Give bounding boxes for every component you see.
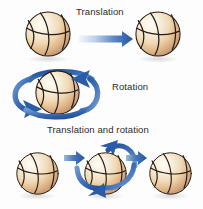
ball-shadow — [26, 55, 70, 63]
ball-shadow — [84, 192, 126, 200]
rotation-orbit-arrow-right — [71, 70, 98, 111]
rotation-orbit-arrow-left-middle — [77, 168, 106, 198]
translation-arrow-1 — [64, 151, 85, 165]
ball-end — [150, 153, 191, 194]
ball-shadow — [149, 192, 191, 200]
ball-shadow — [136, 55, 180, 63]
translation-arrow-2 — [126, 151, 147, 165]
row-translation — [26, 12, 180, 63]
ball-source — [26, 12, 70, 56]
ball-start — [17, 153, 58, 194]
rotation-orbit-arrow-back-middle — [100, 140, 135, 166]
row-translation-and-rotation — [16, 140, 191, 200]
rotation-orbit-arrow-front — [26, 110, 83, 117]
rotation-orbit-arrow-back — [30, 72, 92, 80]
ball-middle — [85, 153, 126, 194]
rotation-orbit-arrow-right-middle — [104, 165, 134, 188]
translation-arrow — [79, 31, 133, 47]
diagram-canvas — [0, 0, 203, 209]
ball-target — [136, 12, 180, 56]
ball-shadow — [16, 192, 58, 200]
label-translation-and-rotation: Translation and rotation — [47, 124, 149, 135]
physics-motion-diagram: Translation Rotation Translation and rot… — [0, 0, 203, 209]
rotation-orbit-arrow-left — [15, 79, 42, 118]
ball-rotating — [36, 71, 79, 114]
label-rotation: Rotation — [112, 81, 148, 92]
ball-shadow — [36, 113, 78, 121]
label-translation: Translation — [76, 6, 124, 17]
row-rotation — [15, 70, 98, 121]
